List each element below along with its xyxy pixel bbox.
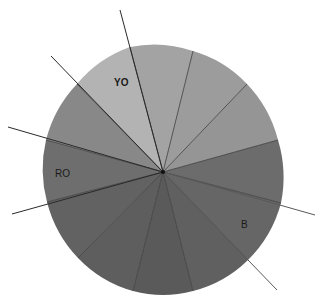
segment-label-b: B — [241, 219, 248, 230]
segment-label-yo: YO — [114, 77, 129, 88]
color-wheel-diagram: YOROB — [0, 0, 323, 303]
segment-label-ro: RO — [55, 168, 70, 179]
center-dot — [161, 170, 165, 174]
